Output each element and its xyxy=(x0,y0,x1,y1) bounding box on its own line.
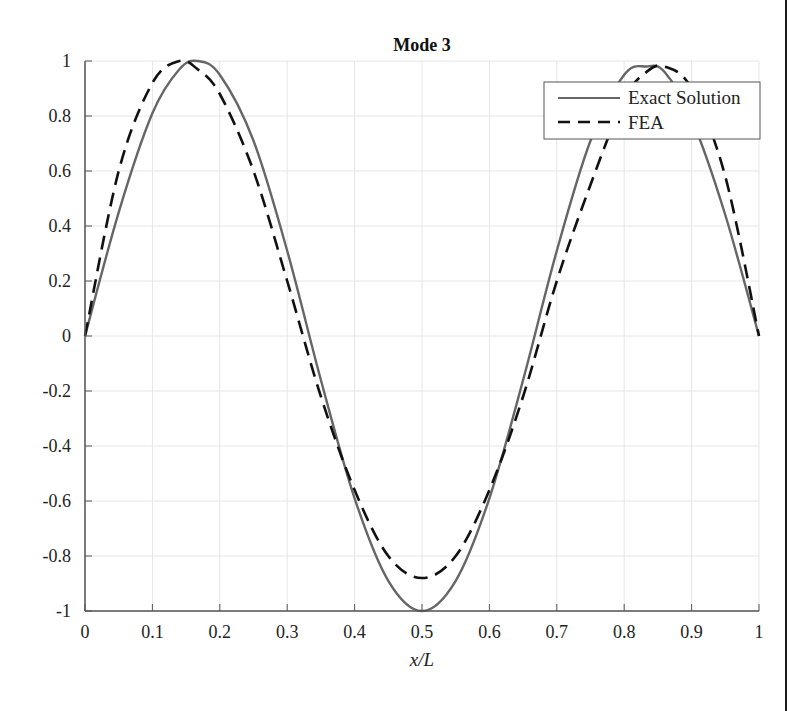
x-tick-label: 1 xyxy=(755,622,764,642)
x-axis-label: x/L xyxy=(409,649,434,670)
y-tick-label: 1 xyxy=(62,51,71,71)
x-tick-label: 0.7 xyxy=(546,622,569,642)
y-tick-label: -0.4 xyxy=(43,436,72,456)
x-tick-label: 0.3 xyxy=(276,622,299,642)
y-tick-label: -1 xyxy=(56,601,71,621)
x-tick-label: 0.2 xyxy=(209,622,232,642)
y-tick-label: 0 xyxy=(62,326,71,346)
x-tick-label: 0 xyxy=(81,622,90,642)
y-tick-label: -0.8 xyxy=(43,546,72,566)
x-tick-label: 0.8 xyxy=(613,622,636,642)
y-tick-label: -0.6 xyxy=(43,491,72,511)
legend: Exact Solution FEA xyxy=(544,82,760,139)
y-tick-label: 0.8 xyxy=(49,106,72,126)
y-tick-label: 0.2 xyxy=(49,271,72,291)
x-tick-label: 0.9 xyxy=(680,622,703,642)
chart-title: Mode 3 xyxy=(393,35,451,55)
y-tick-label: 0.6 xyxy=(49,161,72,181)
y-tick-label: 0.4 xyxy=(49,216,72,236)
legend-label-exact: Exact Solution xyxy=(628,87,741,108)
y-tick-label: -0.2 xyxy=(43,381,72,401)
chart: 00.10.20.30.40.50.60.70.80.9110.80.60.40… xyxy=(0,0,805,711)
x-tick-label: 0.4 xyxy=(343,622,366,642)
x-tick-label: 0.5 xyxy=(411,622,434,642)
tick-labels: 00.10.20.30.40.50.60.70.80.9110.80.60.40… xyxy=(43,51,764,642)
legend-label-fea: FEA xyxy=(628,112,664,133)
x-tick-label: 0.6 xyxy=(478,622,501,642)
grid-lines xyxy=(85,61,759,611)
x-tick-label: 0.1 xyxy=(141,622,164,642)
